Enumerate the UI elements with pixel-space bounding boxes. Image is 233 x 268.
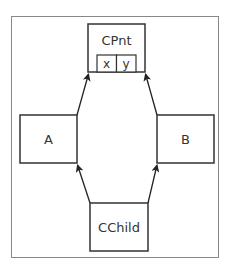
class-b-label: B: [181, 132, 190, 147]
class-a-label: A: [44, 132, 53, 147]
class-b: B: [157, 115, 214, 163]
field-y-label: y: [122, 57, 129, 71]
class-cpnt: CPnt x y: [88, 24, 145, 72]
class-cchild: CChild: [90, 203, 148, 251]
field-x-label: x: [103, 57, 110, 71]
class-cpnt-label: CPnt: [101, 33, 131, 48]
class-a: A: [20, 115, 77, 163]
class-cchild-label: CChild: [98, 220, 140, 235]
diagram-canvas: CPnt x y A B CChild: [0, 0, 233, 268]
